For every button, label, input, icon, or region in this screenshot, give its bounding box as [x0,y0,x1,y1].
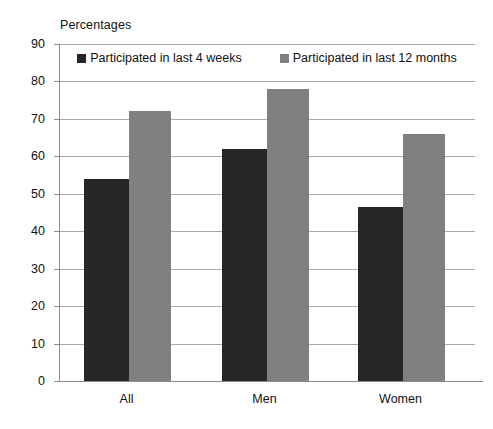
bar-women-series-1 [358,207,403,381]
y-axis-tick-mark [54,381,60,382]
y-axis-tick-label: 80 [1,74,45,88]
bar-men-series-1 [222,149,267,381]
gridline [60,44,475,45]
y-axis-tick-label: 20 [1,299,45,313]
y-axis-tick-label: 50 [1,187,45,201]
y-axis-tick-label: 10 [1,337,45,351]
y-axis-tick-mark [54,269,60,270]
y-axis-tick-mark [54,231,60,232]
gridline [60,81,475,82]
x-axis-label-all: All [120,392,134,406]
y-axis-tick-mark [54,44,60,45]
y-axis-tick-mark [54,81,60,82]
y-axis-tick-label: 30 [1,262,45,276]
y-axis-tick-mark [54,119,60,120]
y-axis-tick-mark [54,344,60,345]
y-axis-tick-label: 70 [1,112,45,126]
bar-men-series-2 [267,89,309,381]
bar-all-series-2 [129,111,171,381]
y-axis-tick-label: 40 [1,224,45,238]
x-axis-line [60,381,483,382]
y-axis-tick-mark [54,156,60,157]
x-axis-label-men: Men [252,392,276,406]
y-axis-tick-mark [54,194,60,195]
y-axis-tick-label: 90 [1,37,45,51]
y-axis-tick-label: 0 [1,374,45,388]
y-axis-title: Percentages [60,18,131,32]
plot-area: 0102030405060708090 [59,44,474,381]
x-axis-label-women: Women [379,392,422,406]
bar-women-series-2 [403,134,445,381]
y-axis-tick-mark [54,306,60,307]
bar-chart: Percentages 0102030405060708090 Particip… [0,0,493,429]
y-axis-tick-label: 60 [1,149,45,163]
bar-all-series-1 [84,179,129,381]
